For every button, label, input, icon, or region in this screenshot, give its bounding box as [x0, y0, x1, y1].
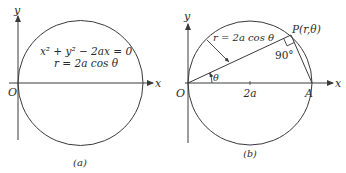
origin-label-b: O	[176, 87, 185, 100]
radius-leader-line	[207, 40, 229, 62]
caption-a: (a)	[73, 157, 87, 168]
polar-equation-a: r = 2a cos θ	[54, 57, 119, 69]
theta-label: θ	[213, 72, 219, 83]
cartesian-equation: x² + y² − 2ax = 0	[40, 45, 133, 57]
polar-circle-figure: y x O x² + y² − 2ax = 0 r = 2a cos θ (a)…	[0, 0, 346, 173]
radius-label-b: r = 2a cos θ	[213, 32, 274, 43]
diameter-label: 2a	[243, 87, 257, 99]
theta-arc	[210, 73, 212, 83]
point-a-label: A	[304, 87, 313, 100]
right-angle-label: 90°	[275, 49, 294, 61]
x-axis-label-a: x	[155, 77, 162, 90]
x-axis-label-b: x	[335, 77, 342, 90]
caption-b: (b)	[243, 148, 257, 159]
y-axis-label-a: y	[13, 4, 21, 17]
panel-a: y x O x² + y² − 2ax = 0 r = 2a cos θ (a)	[8, 4, 162, 168]
panel-b: y x O P(r,θ) A 2a θ 90° r = 2a cos θ (b)	[176, 10, 342, 159]
y-axis-label-b: y	[183, 10, 191, 23]
origin-label-a: O	[8, 86, 17, 99]
point-p-label: P(r,θ)	[291, 23, 321, 35]
